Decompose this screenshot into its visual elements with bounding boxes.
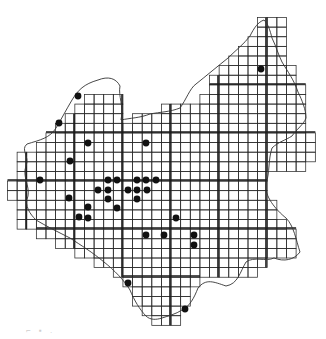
grid-cell	[171, 143, 181, 153]
grid-cell	[238, 239, 248, 249]
grid-cell	[229, 258, 239, 268]
grid-cell	[171, 277, 181, 287]
grid-cell	[152, 287, 162, 297]
grid-cell	[277, 248, 287, 258]
grid-cell	[267, 239, 277, 249]
grid-cell	[277, 37, 287, 47]
grid-cell	[200, 143, 210, 153]
grid-cell	[181, 239, 191, 249]
grid-cell	[133, 162, 143, 172]
grid-cell	[238, 268, 248, 278]
grid-cell	[123, 200, 133, 210]
grid-cell	[75, 191, 85, 201]
grid-cell	[229, 114, 239, 124]
grid-cell	[306, 143, 316, 153]
grid-cell	[238, 191, 248, 201]
occurrence-dot	[134, 196, 141, 203]
grid-cell	[238, 104, 248, 114]
grid-cell	[248, 239, 258, 249]
grid-cell	[123, 210, 133, 220]
grid-cell	[56, 143, 66, 153]
grid-cell	[75, 143, 85, 153]
grid-cell	[248, 162, 258, 172]
grid-cell	[181, 181, 191, 191]
grid-cell	[238, 200, 248, 210]
occurrence-dot	[66, 195, 73, 202]
grid-cell	[84, 94, 94, 104]
grid-cell	[277, 85, 287, 95]
grid-cell	[94, 94, 104, 104]
grid-cell	[171, 181, 181, 191]
grid-cell	[133, 114, 143, 124]
grid-cell	[219, 66, 229, 76]
grid-cell	[123, 152, 133, 162]
grid-cell	[104, 114, 114, 124]
grid-cell	[84, 229, 94, 239]
grid-cell	[248, 181, 258, 191]
grid-cell	[142, 306, 152, 316]
grid-cell	[219, 248, 229, 258]
grid-cell	[248, 200, 258, 210]
occurrence-dot	[191, 232, 198, 239]
grid-cell	[190, 181, 200, 191]
grid-cell	[152, 152, 162, 162]
grid-cell	[190, 191, 200, 201]
grid-cell	[142, 287, 152, 297]
grid-cell	[229, 181, 239, 191]
grid-cell	[104, 143, 114, 153]
grid-cell	[219, 143, 229, 153]
occurrence-dot	[114, 205, 121, 212]
grid-cell	[248, 104, 258, 114]
grid-cell	[152, 133, 162, 143]
grid-cell	[219, 210, 229, 220]
grid-cell	[219, 114, 229, 124]
grid-cell	[238, 56, 248, 66]
grid-cell	[181, 229, 191, 239]
occurrence-dot	[37, 177, 44, 184]
grid-cell	[181, 133, 191, 143]
grid-cell	[94, 104, 104, 114]
occurrence-dot	[75, 93, 82, 100]
grid-cell	[229, 248, 239, 258]
grid-cell	[296, 143, 306, 153]
grid-cell	[84, 104, 94, 114]
region-border	[24, 20, 306, 319]
grid-cell	[171, 200, 181, 210]
grid-cell	[56, 181, 66, 191]
grid-cell	[27, 162, 37, 172]
occurrence-dot	[85, 140, 92, 147]
grid-cell	[152, 306, 162, 316]
grid-cell	[219, 229, 229, 239]
grid-cell	[8, 191, 18, 201]
grid-cell	[142, 210, 152, 220]
grid-cell	[181, 191, 191, 201]
grid-cell	[248, 133, 258, 143]
grid-cell	[123, 143, 133, 153]
grid-cell	[75, 229, 85, 239]
grid-cell	[171, 296, 181, 306]
grid-cell	[46, 152, 56, 162]
grid-cell	[181, 143, 191, 153]
grid-cell	[36, 210, 46, 220]
grid-cell	[277, 27, 287, 37]
grid-cell	[181, 114, 191, 124]
occurrence-dot	[85, 204, 92, 211]
occurrence-dot	[191, 242, 198, 249]
grid-cell	[286, 133, 296, 143]
grid-cell	[133, 248, 143, 258]
grid-cell	[200, 181, 210, 191]
grid-cell	[238, 46, 248, 56]
grid-cell	[219, 239, 229, 249]
occurrence-dot	[114, 177, 121, 184]
grid-cell	[56, 133, 66, 143]
grid-cell	[171, 114, 181, 124]
grid-cell	[94, 114, 104, 124]
grid-cell	[286, 104, 296, 114]
grid-cell	[190, 277, 200, 287]
occurrence-dot	[182, 306, 189, 313]
grid-cell	[296, 133, 306, 143]
grid-cell	[248, 268, 258, 278]
grid-cell	[171, 191, 181, 201]
grid-cell	[286, 94, 296, 104]
grid-cell	[238, 94, 248, 104]
